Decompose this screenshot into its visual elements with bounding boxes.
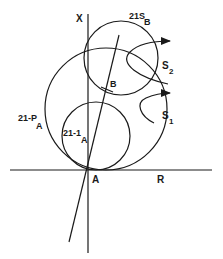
s2-label: S bbox=[162, 60, 169, 71]
circle-211-sub: A bbox=[81, 135, 88, 145]
s1-label: S bbox=[162, 110, 169, 121]
circle-21s-b bbox=[84, 21, 158, 95]
slanted-line bbox=[69, 35, 119, 242]
circle-21p-sub: A bbox=[36, 121, 43, 131]
circle-21p-label: 21-P bbox=[18, 113, 37, 123]
r-axis-label: R bbox=[157, 174, 165, 185]
point-b-label: B bbox=[110, 79, 117, 89]
circle-21-p-a bbox=[45, 48, 167, 170]
circle-211-label: 21-1 bbox=[63, 128, 81, 138]
point-a-label: A bbox=[92, 174, 99, 185]
s1-sub: 1 bbox=[169, 117, 174, 126]
geometry-diagram: X R A B 21S B 21-P A 21-1 A S 2 S 1 bbox=[0, 0, 223, 259]
s2-sub: 2 bbox=[169, 67, 174, 76]
circle-21s-sub: B bbox=[144, 17, 151, 27]
x-axis-label: X bbox=[76, 13, 83, 24]
circle-21s-label: 21S bbox=[129, 11, 145, 21]
